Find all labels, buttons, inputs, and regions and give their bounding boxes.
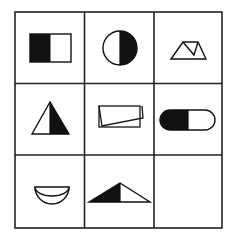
cell-r1c1-folded-rectangle-icon <box>99 106 143 127</box>
cell-r0c1-half-black-circle-icon <box>103 31 137 65</box>
cell-r0c2-trapezoid-icon <box>171 42 206 59</box>
puzzle-matrix <box>0 0 236 243</box>
cell-r2c1-half-black-triangle-icon <box>89 183 150 202</box>
cell-r0c0-half-black-square-icon <box>30 34 71 62</box>
cell-r2c0-bowl-icon <box>35 187 69 204</box>
cell-r1c0-half-black-triangle-icon <box>32 102 69 134</box>
cell-r2c2-empty-answer-slot <box>156 157 220 226</box>
cell-r1c2-half-black-capsule-icon <box>160 110 215 130</box>
